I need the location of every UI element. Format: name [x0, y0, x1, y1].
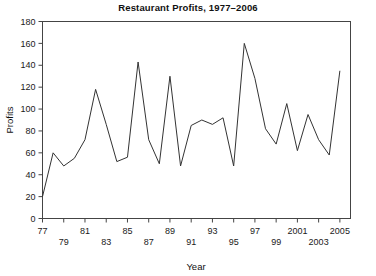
x-axis-title: Year [186, 261, 205, 272]
x-axis-tick-label: 91 [186, 237, 196, 247]
x-axis-tick-label: 97 [250, 226, 260, 236]
y-axis-tick-label: 160 [20, 39, 35, 49]
x-axis-tick-label: 2003 [309, 237, 329, 247]
x-axis-tick-label: 81 [80, 226, 90, 236]
y-axis-title: Profits [4, 106, 15, 133]
x-axis-tick-label: 77 [37, 226, 47, 236]
y-axis-tick-label: 100 [20, 104, 35, 114]
y-axis-tick-label: 80 [25, 126, 35, 136]
y-axis-tick-label: 20 [25, 192, 35, 202]
x-axis-tick-label: 93 [207, 226, 217, 236]
y-axis-tick-label: 180 [20, 17, 35, 27]
line-chart-plot: 020406080100120140160180 777981838587899… [0, 0, 376, 276]
y-axis-tick-label: 120 [20, 82, 35, 92]
x-axis-tick-label: 83 [101, 237, 111, 247]
y-axis-tick-label: 40 [25, 170, 35, 180]
y-axis-tick-label: 60 [25, 148, 35, 158]
x-axis-tick-label: 87 [144, 237, 154, 247]
x-axis-tick-label: 2005 [330, 226, 350, 236]
x-axis-tick-label: 85 [122, 226, 132, 236]
data-line [43, 43, 340, 196]
x-axis-tick-label: 89 [165, 226, 175, 236]
y-axis-ticks [39, 22, 43, 219]
x-axis-tick-label: 99 [271, 237, 281, 247]
x-axis-tick-label: 79 [59, 237, 69, 247]
x-axis-tick-label: 2001 [287, 226, 307, 236]
data-series-group [43, 43, 340, 196]
y-axis-tick-label: 0 [30, 214, 35, 224]
y-axis-tick-label: 140 [20, 60, 35, 70]
y-axis-tick-labels: 020406080100120140160180 [20, 17, 35, 224]
x-axis-tick-label: 95 [229, 237, 239, 247]
chart-figure: Restaurant Profits, 1977–2006 0204060801… [0, 0, 376, 276]
x-axis-tick-labels: 777981838587899193959799200120032005 [37, 226, 349, 247]
x-axis-ticks [43, 219, 340, 223]
